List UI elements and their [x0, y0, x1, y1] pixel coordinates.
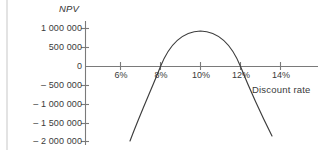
y-tick-label: – 2 000 000 [33, 136, 82, 146]
y-tick-label: 1 000 000 [41, 23, 82, 33]
npv-curve [130, 31, 272, 141]
x-axis-title: Discount rate [252, 84, 311, 95]
x-tick-label: 8% [154, 70, 167, 80]
y-tick-label: 500 000 [49, 42, 82, 52]
x-tick-label: 10% [192, 70, 210, 80]
chart-figure: NPV Discount rate 1 000 000 500 000 0 – … [0, 0, 330, 150]
y-axis-title: NPV [59, 3, 79, 14]
y-tick-label: – 500 000 [41, 80, 82, 90]
x-tick-label: 6% [114, 70, 127, 80]
y-tick-label: 0 [77, 61, 82, 71]
x-tick-label: 12% [232, 70, 250, 80]
x-tick-label: 14% [272, 70, 290, 80]
y-tick-label: – 1 000 000 [33, 99, 82, 109]
y-tick-label: – 1 500 000 [33, 118, 82, 128]
